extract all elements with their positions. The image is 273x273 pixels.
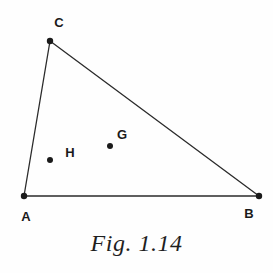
vertex-dot-b (256, 193, 262, 199)
point-label-h: H (65, 146, 74, 159)
point-dot-h (47, 157, 53, 163)
vertex-label-b: B (244, 207, 253, 220)
figure-caption: Fig. 1.14 (0, 231, 273, 255)
point-label-g: G (117, 128, 127, 141)
vertex-dot-a (21, 193, 27, 199)
vertex-label-c: C (54, 16, 63, 29)
point-dot-g (107, 143, 113, 149)
vertex-dots (21, 38, 262, 199)
triangle-edges (24, 41, 259, 196)
interior-point-dots (47, 143, 113, 163)
vertex-dot-c (47, 38, 53, 44)
figure-container: C A B H G Fig. 1.14 (0, 0, 273, 273)
edge-ac (24, 41, 50, 196)
edge-cb (50, 41, 259, 196)
vertex-label-a: A (21, 210, 30, 223)
